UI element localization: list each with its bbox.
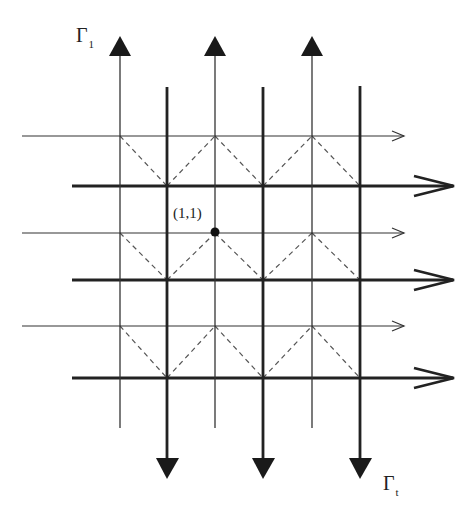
thick-vertical-lines	[167, 86, 360, 460]
gamma-1-label: Γ1	[76, 24, 93, 47]
gamma-t-subscript: t	[396, 486, 399, 498]
up-arrow-icon	[109, 36, 131, 56]
point-1-1-label: (1,1)	[173, 205, 202, 222]
dashed-diagonals	[120, 136, 360, 378]
down-arrow-icon	[252, 458, 275, 479]
gamma-t-label: Γt	[383, 472, 398, 495]
gamma-1-subscript: 1	[89, 38, 95, 50]
point-1-1-marker	[211, 228, 220, 237]
up-arrow-icon	[204, 36, 226, 56]
up-arrow-icon	[301, 36, 323, 56]
gamma-t-symbol: Γ	[383, 472, 395, 494]
down-arrow-icon	[349, 458, 372, 479]
lattice-diagram	[0, 0, 476, 525]
up-arrowheads	[109, 36, 323, 56]
gamma-1-symbol: Γ	[76, 24, 88, 46]
diagram-canvas: Γ1 Γt (1,1)	[0, 0, 476, 525]
down-arrowheads	[156, 458, 372, 479]
thin-vertical-lines	[120, 55, 312, 428]
down-arrow-icon	[156, 458, 179, 479]
